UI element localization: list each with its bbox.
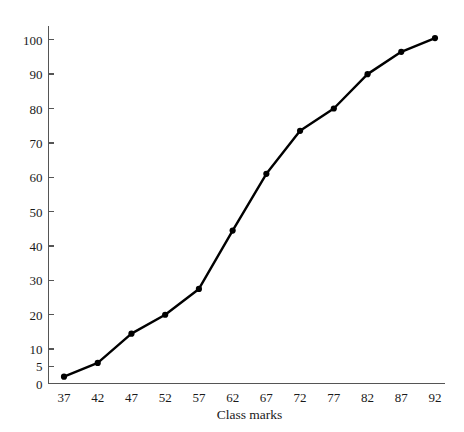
x-axis-tick-label: 92 (429, 391, 442, 404)
y-axis-tick-label: 90 (30, 68, 43, 81)
x-axis-tick-label: 82 (361, 391, 374, 404)
data-series-line (64, 38, 435, 377)
y-axis-tick-label: 20 (30, 308, 43, 321)
y-axis-tick-label: 40 (30, 240, 43, 253)
data-point-marker (95, 360, 101, 366)
x-axis-tick-label: 77 (327, 391, 340, 404)
y-axis-tick-label: 100 (23, 33, 43, 46)
x-axis-tick-label: 72 (294, 391, 307, 404)
x-axis-tick-label: 67 (260, 391, 273, 404)
data-point-marker (61, 374, 67, 380)
line-chart: 05102030405060708090100 3742475257626772… (0, 0, 464, 432)
y-axis-tick-label: 60 (30, 171, 43, 184)
y-axis-tick-label: 5 (36, 360, 43, 373)
y-axis-tick-label: 30 (30, 274, 43, 287)
data-point-markers (61, 35, 438, 380)
data-point-marker (128, 331, 134, 337)
data-point-marker (364, 71, 370, 77)
data-point-marker (162, 312, 168, 318)
data-point-marker (263, 171, 269, 177)
data-point-marker (230, 227, 236, 233)
x-axis-tick-label: 87 (395, 391, 408, 404)
y-axis-tick-label: 10 (30, 343, 43, 356)
x-axis-tick-label: 42 (91, 391, 104, 404)
y-axis-tick-label: 0 (36, 377, 43, 390)
x-axis-tick-label: 47 (125, 391, 138, 404)
chart-plot-area (0, 0, 464, 432)
data-point-marker (432, 35, 438, 41)
series-polyline (64, 38, 435, 377)
x-axis-title: Class marks (217, 407, 283, 423)
data-point-marker (331, 105, 337, 111)
x-axis-tick-label: 37 (58, 391, 71, 404)
y-axis-tick-label: 50 (30, 205, 43, 218)
y-axis-tick-label: 70 (30, 136, 43, 149)
x-axis-tick-label: 62 (226, 391, 239, 404)
y-axis-tick-label: 80 (30, 102, 43, 115)
x-axis-tick-label: 52 (159, 391, 172, 404)
chart-tick-marks (49, 40, 55, 384)
data-point-marker (398, 49, 404, 55)
data-point-marker (196, 286, 202, 292)
data-point-marker (297, 128, 303, 134)
x-axis-tick-label: 57 (192, 391, 205, 404)
